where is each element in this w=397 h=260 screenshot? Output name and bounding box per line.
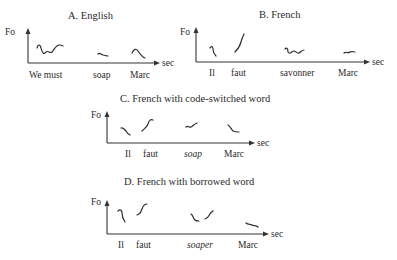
panel-d-word-1: Il <box>118 240 124 250</box>
panel-b-word-4: Marc <box>338 68 358 78</box>
panel-b-x-axis-arrow-icon <box>364 60 370 65</box>
panel-c-title: C. French with code-switched word <box>120 93 271 104</box>
panel-b-title: B. French <box>259 9 301 20</box>
panel-a-contour-marc <box>132 49 145 58</box>
panel-d-contour-il <box>118 210 125 222</box>
panel-d-word-3: soaper <box>187 240 213 250</box>
panel-c-contour-soap <box>186 123 197 127</box>
panel-d-contour-marc <box>246 223 258 227</box>
panel-a-contour-soap <box>98 53 108 56</box>
panel-d-contour-faut <box>137 204 147 215</box>
pitch-contour-figure: A. English Fo sec We must soap Marc B. F… <box>0 0 397 260</box>
panel-b-word-3: savonner <box>280 68 315 78</box>
panel-d-borrowed: D. French with borrowed word Fo sec Il f… <box>91 176 283 250</box>
panel-b-french: B. French Fo sec Il faut savonner Marc <box>180 9 384 78</box>
panel-d-y-axis-arrow-icon <box>105 200 110 206</box>
panel-c-word-1: Il <box>125 149 131 159</box>
panel-d-contour-soaper-1 <box>191 214 199 221</box>
panel-a-word-3: Marc <box>130 70 150 80</box>
panel-b-x-axis-label: sec <box>372 57 384 67</box>
panel-d-y-axis-label: Fo <box>91 197 101 207</box>
panel-c-contour-faut <box>142 120 153 131</box>
panel-d-word-2: faut <box>136 240 151 250</box>
panel-c-x-axis-arrow-icon <box>249 141 255 146</box>
panel-c-code-switched: C. French with code-switched word Fo sec… <box>91 93 271 159</box>
panel-d-contour-soaper-2 <box>205 211 213 219</box>
panel-b-word-2: faut <box>231 68 246 78</box>
panel-c-word-4: Marc <box>224 149 244 159</box>
panel-d-title: D. French with borrowed word <box>124 176 255 187</box>
panel-b-contour-faut <box>235 34 244 52</box>
panel-c-contour-il <box>121 128 130 135</box>
panel-a-y-axis-arrow-icon <box>26 28 31 34</box>
panel-c-word-2: faut <box>143 149 158 159</box>
panel-a-y-axis-label: Fo <box>5 27 15 37</box>
panel-b-y-axis-arrow-icon <box>194 27 199 33</box>
panel-c-word-3: soap <box>184 149 202 159</box>
panel-d-x-axis-arrow-icon <box>263 232 269 237</box>
panel-b-y-axis-label: Fo <box>180 27 190 37</box>
panel-a-title: A. English <box>68 10 114 21</box>
panel-c-x-axis-label: sec <box>257 138 269 148</box>
panel-b-contour-savonner <box>285 48 304 53</box>
panel-a-x-axis-label: sec <box>162 58 174 68</box>
panel-b-word-1: Il <box>209 68 215 78</box>
panel-c-y-axis-label: Fo <box>91 110 101 120</box>
panel-c-contour-marc <box>228 125 239 132</box>
panel-d-word-4: Marc <box>238 240 258 250</box>
panel-a-word-2: soap <box>93 70 111 80</box>
panel-a-word-1: We must <box>29 70 63 80</box>
panel-b-contour-il <box>210 47 216 56</box>
panel-a-x-axis-arrow-icon <box>154 61 160 66</box>
panel-a-contour-we-must <box>37 45 63 54</box>
panel-d-x-axis-label: sec <box>271 229 283 239</box>
panel-a-english: A. English Fo sec We must soap Marc <box>5 10 174 80</box>
panel-b-contour-marc <box>344 52 355 53</box>
panel-c-y-axis-arrow-icon <box>105 111 110 117</box>
